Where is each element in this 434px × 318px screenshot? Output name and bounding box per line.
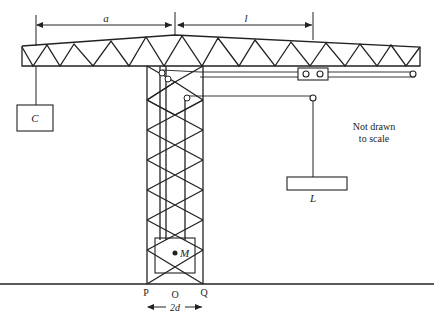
trolley: [298, 68, 416, 101]
mass-center-dot: [173, 251, 178, 256]
dimension-l-label: l: [244, 12, 247, 24]
dimension-lines: [36, 12, 313, 46]
point-p-label: P: [143, 287, 149, 298]
base-width-label: 2d: [170, 302, 181, 313]
trolley-rails: [162, 70, 415, 96]
load-block: [287, 177, 347, 190]
dimension-a-label: a: [103, 12, 109, 24]
jib-truss: [22, 35, 420, 66]
crane-diagram: L C M P O Q 2d a l Not drawn: [0, 0, 434, 318]
point-q-label: Q: [200, 287, 208, 298]
note-line-1: Not drawn: [353, 121, 396, 132]
load-label: L: [309, 192, 316, 204]
tower-pulleys: [159, 70, 190, 101]
note-line-2: to scale: [359, 133, 390, 144]
mass-label: M: [179, 247, 190, 259]
counterweight-label: C: [31, 112, 39, 124]
point-o-label: O: [171, 289, 178, 300]
